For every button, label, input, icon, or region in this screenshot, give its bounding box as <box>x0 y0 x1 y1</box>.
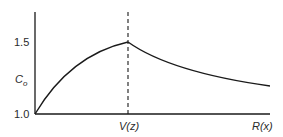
x-tick-r-x: R(x) <box>252 121 273 132</box>
y-tick-1-0: 1.0 <box>14 109 29 120</box>
decaying-curve <box>128 42 270 86</box>
y-axis-label-subscript: o <box>23 79 27 88</box>
rising-curve <box>35 42 128 114</box>
chart-canvas <box>0 0 283 137</box>
y-axis-label-main: C <box>15 73 23 85</box>
x-tick-v-z: V(z) <box>119 121 139 132</box>
y-axis-label: Co <box>15 74 27 88</box>
y-tick-1-5: 1.5 <box>14 37 29 48</box>
